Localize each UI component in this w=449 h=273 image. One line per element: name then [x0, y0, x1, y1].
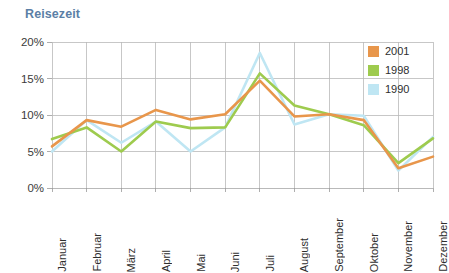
legend-swatch-icon [368, 46, 379, 57]
x-tick-label: Oktober [368, 233, 380, 272]
x-tick-label: September [333, 218, 345, 272]
legend-label: 1998 [385, 65, 409, 76]
y-tick-label: 20% [21, 36, 44, 48]
legend-swatch-icon [368, 65, 379, 76]
x-tick-label: August [298, 238, 310, 272]
legend-item-2001[interactable]: 2001 [368, 42, 438, 61]
y-tick-label: 0% [27, 182, 44, 194]
y-tick-label: 5% [27, 146, 44, 158]
x-tick-label: März [125, 248, 137, 272]
x-tick-label: Januar [56, 238, 68, 272]
y-axis: 0%5%10%15%20% [0, 42, 44, 188]
legend-label: 2001 [385, 46, 409, 57]
y-tick-label: 15% [21, 73, 44, 85]
chart-legend: 200119981990 [368, 42, 438, 99]
x-tick-label: Dezember [437, 221, 449, 272]
legend-label: 1990 [385, 84, 409, 95]
x-tick-label: Juli [264, 255, 276, 272]
x-tick-label: April [160, 250, 172, 272]
chart-title: Reisezeit [25, 7, 80, 21]
x-tick-label: Mai [195, 254, 207, 272]
legend-item-1990[interactable]: 1990 [368, 80, 438, 99]
legend-swatch-icon [368, 84, 379, 95]
y-tick-label: 10% [21, 109, 44, 121]
x-axis: JanuarFebruarMärzAprilMaiJuniJuliAugustS… [52, 192, 433, 272]
x-tick-label: Februar [91, 233, 103, 272]
legend-item-1998[interactable]: 1998 [368, 61, 438, 80]
x-tick-label: November [402, 221, 414, 272]
x-tick-label: Juni [229, 252, 241, 272]
